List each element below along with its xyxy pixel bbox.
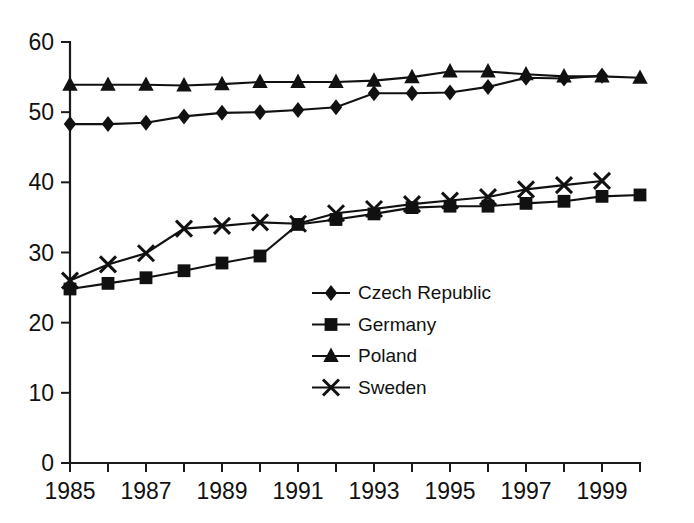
marker-diamond — [330, 99, 342, 115]
series-line — [70, 181, 602, 281]
legend-item-poland[interactable]: Poland — [312, 345, 417, 366]
y-axis-tick-label: 60 — [28, 29, 54, 55]
x-axis-tick-label: 1995 — [424, 478, 475, 504]
marker-triangle — [100, 76, 115, 90]
marker-cross — [100, 256, 116, 272]
x-axis-tick-label: 1989 — [196, 478, 247, 504]
y-axis-tick-label: 30 — [28, 240, 54, 266]
marker-diamond — [444, 85, 456, 101]
y-axis-tick-label: 40 — [28, 169, 54, 195]
chart-legend: Czech RepublicGermanyPolandSweden — [312, 282, 491, 398]
y-axis-tick-label: 20 — [28, 310, 54, 336]
marker-cross — [138, 245, 154, 261]
legend-item-czech-republic[interactable]: Czech Republic — [312, 282, 491, 303]
marker-diamond — [140, 115, 152, 131]
marker-diamond — [406, 85, 418, 101]
marker-square — [558, 195, 571, 208]
marker-diamond — [368, 85, 380, 101]
x-axis: 19851987198919911993199519971999 — [44, 463, 640, 504]
marker-square — [254, 250, 267, 263]
line-chart: 0102030405060 19851987198919911993199519… — [0, 0, 694, 523]
marker-square — [325, 318, 338, 331]
chart-canvas: 0102030405060 19851987198919911993199519… — [0, 0, 694, 523]
x-axis-tick-label: 1991 — [272, 478, 323, 504]
y-axis-tick-label: 10 — [28, 380, 54, 406]
x-axis-tick-label: 1993 — [348, 478, 399, 504]
marker-triangle — [323, 348, 338, 362]
marker-square — [140, 271, 153, 284]
marker-diamond — [64, 116, 76, 132]
legend-item-label: Czech Republic — [358, 282, 491, 303]
marker-triangle — [442, 63, 457, 77]
marker-square — [102, 277, 115, 290]
marker-diamond — [102, 116, 114, 132]
legend-item-label: Sweden — [358, 377, 427, 398]
marker-triangle — [252, 74, 267, 88]
marker-triangle — [62, 76, 77, 90]
series-poland — [62, 63, 647, 91]
y-axis-tick-label: 0 — [41, 450, 54, 476]
x-axis-tick-label: 1987 — [120, 478, 171, 504]
marker-diamond — [216, 105, 228, 121]
legend-item-label: Germany — [358, 314, 437, 335]
series-sweden — [62, 173, 610, 289]
marker-square — [178, 264, 191, 277]
marker-square — [520, 197, 533, 210]
data-series-group — [62, 63, 648, 295]
legend-item-sweden[interactable]: Sweden — [312, 377, 427, 398]
marker-triangle — [480, 63, 495, 77]
marker-square — [216, 257, 229, 270]
marker-diamond — [325, 285, 337, 301]
marker-triangle — [138, 76, 153, 90]
x-axis-tick-label: 1985 — [44, 478, 95, 504]
series-germany — [64, 189, 647, 296]
legend-item-germany[interactable]: Germany — [312, 314, 437, 335]
legend-item-label: Poland — [358, 345, 417, 366]
marker-diamond — [292, 102, 304, 118]
x-axis-tick-label: 1999 — [576, 478, 627, 504]
marker-square — [634, 189, 647, 202]
y-axis-tick-label: 50 — [28, 99, 54, 125]
x-axis-tick-label: 1997 — [500, 478, 551, 504]
marker-diamond — [178, 108, 190, 124]
marker-square — [596, 190, 609, 203]
marker-diamond — [254, 104, 266, 120]
y-axis: 0102030405060 — [28, 29, 70, 476]
marker-triangle — [290, 74, 305, 88]
series-line — [70, 195, 640, 289]
marker-diamond — [482, 79, 494, 95]
